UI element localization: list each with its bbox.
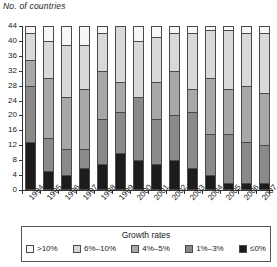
bar-segment [151,37,162,82]
y-tick-label: 8 [13,156,17,164]
legend-label: >10% [37,244,58,253]
bar-segment [25,86,36,142]
y-tick [19,26,22,27]
bar-2006 [241,26,252,190]
bar-segment [43,138,54,172]
bar-segment [241,86,252,142]
bar-segment [133,160,144,190]
legend-item-1[interactable]: 6%–10% [73,244,116,253]
bar-segment [133,26,144,41]
y-tick-label: 40 [8,37,17,45]
y-tick [19,41,22,42]
y-tick [19,86,22,87]
legend-item-4[interactable]: ≤0% [239,244,266,253]
bar-segment [169,71,180,116]
bar-segment [169,33,180,70]
bar-segment [187,26,198,33]
y-axis-line [22,26,23,190]
y-tick-label: 36 [8,52,17,60]
bar-1994 [25,26,36,190]
legend-swatch [185,245,193,253]
y-tick-label: 20 [8,111,17,119]
bar-segment [241,33,252,85]
bar-segment [79,149,90,168]
bar-segment [25,26,36,33]
y-tick-label: 4 [13,171,17,179]
bar-segment [223,30,234,90]
bar-segment [25,60,36,86]
bar-segment [259,145,270,182]
legend-label: 1%–3% [196,244,224,253]
y-tick [19,160,22,161]
bar-1996 [61,26,72,190]
legend-item-3[interactable]: 1%–3% [185,244,224,253]
bar-segment [205,30,216,78]
bar-segment [223,89,234,134]
legend-label: 4%–5% [142,244,170,253]
legend: Growth rates >10%6%–10%4%–5%1%–3%≤0% [21,226,271,262]
bar-segment [97,33,108,70]
bar-segment [259,33,270,93]
bar-segment [187,89,198,111]
bar-segment [241,142,252,183]
bar-segment [115,112,126,153]
y-tick [19,130,22,131]
stacked-bar-chart: No. of countries 048121620242832364044 1… [0,0,277,267]
legend-item-0[interactable]: >10% [26,244,58,253]
bar-segment [97,26,108,33]
bar-segment [61,149,72,175]
legend-swatch [131,245,139,253]
legend-swatch [73,245,81,253]
y-axis-title: No. of countries [3,1,66,11]
bar-segment [187,33,198,89]
y-tick [19,145,22,146]
bar-segment [205,26,216,30]
bar-1999 [115,26,126,190]
legend-label: 6%–10% [84,244,116,253]
bar-2000 [133,26,144,190]
y-tick [19,71,22,72]
bar-segment [151,26,162,37]
bar-1997 [79,26,90,190]
bar-segment [133,41,144,97]
plot-area: 048121620242832364044 [22,26,273,190]
bar-segment [169,26,180,33]
y-tick [19,115,22,116]
y-tick [19,101,22,102]
bar-segment [61,97,72,149]
bar-segment [133,97,144,160]
bar-2005 [223,26,234,190]
bar-segment [115,26,126,82]
bar-segment [79,89,90,149]
bar-2001 [151,26,162,190]
legend-swatch [239,245,247,253]
bar-segment [79,45,90,90]
bar-segment [223,26,234,30]
bar-segment [25,33,36,59]
y-tick-label: 28 [8,82,17,90]
bar-segment [79,26,90,45]
legend-label: ≤0% [250,244,266,253]
bar-segment [43,78,54,138]
bar-segment [97,71,108,119]
bar-segment [61,45,72,97]
bar-segment [151,82,162,119]
bar-2007 [259,26,270,190]
y-tick-label: 0 [13,186,17,194]
bar-2003 [187,26,198,190]
bar-segment [259,26,270,33]
y-tick [19,175,22,176]
legend-item-2[interactable]: 4%–5% [131,244,170,253]
bar-segment [115,82,126,112]
y-tick-label: 16 [8,126,17,134]
bar-1998 [97,26,108,190]
bar-segment [97,119,108,164]
bar-segment [115,153,126,190]
bar-2002 [169,26,180,190]
legend-items: >10%6%–10%4%–5%1%–3%≤0% [26,244,266,253]
bar-segment [241,26,252,33]
y-tick [19,56,22,57]
bar-1995 [43,26,54,190]
y-tick-label: 24 [8,97,17,105]
x-tick [22,190,23,194]
